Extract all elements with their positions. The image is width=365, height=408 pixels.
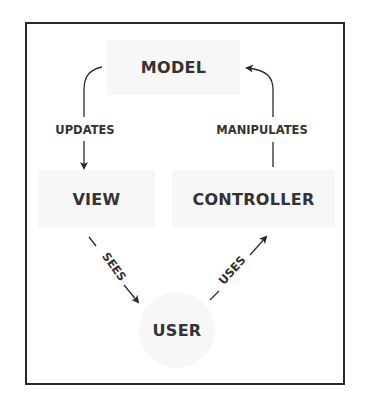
edge-manipulates: MANIPULATES: [216, 68, 307, 167]
uses-arrow-start: [210, 291, 219, 300]
edge-sees: SEES: [89, 237, 138, 302]
sees-label: SEES: [99, 249, 129, 283]
updates-label: UPDATES: [55, 123, 114, 137]
updates-arrow-upper: [84, 67, 102, 117]
manipulates-label: MANIPULATES: [216, 123, 307, 137]
sees-arrow-end: [124, 285, 138, 302]
edges-layer: UPDATES MANIPULATES SEES USES: [0, 0, 365, 408]
manipulates-arrow-upper: [247, 68, 273, 117]
uses-label: USES: [216, 253, 249, 287]
edge-uses: USES: [210, 237, 266, 300]
sees-arrow-start: [89, 237, 96, 246]
edge-updates: UPDATES: [55, 67, 114, 168]
uses-arrow-end: [250, 237, 266, 255]
